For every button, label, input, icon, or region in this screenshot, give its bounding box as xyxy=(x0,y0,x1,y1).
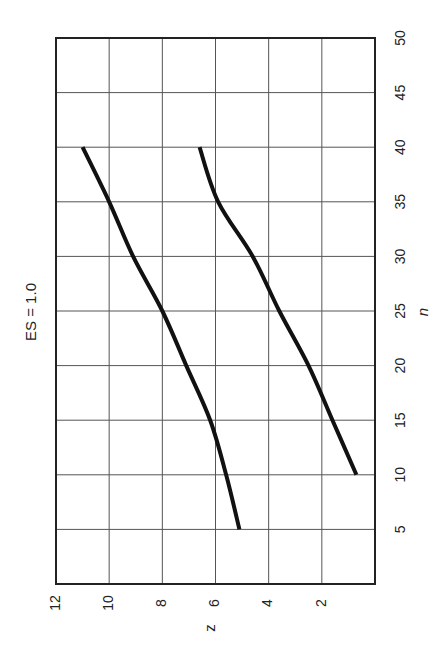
n-tick-label: 40 xyxy=(392,139,408,155)
n-tick-label: 45 xyxy=(392,85,408,101)
n-axis-label: n xyxy=(414,308,431,316)
n-tick-label: 20 xyxy=(392,358,408,374)
chart-title: ES = 1.0 xyxy=(22,283,39,341)
n-tick-label: 10 xyxy=(392,467,408,483)
n-tick-label: 5 xyxy=(392,525,408,533)
z-tick-label: 10 xyxy=(100,595,116,611)
chart: 5101520253035404550 24681012 n z ES = 1.… xyxy=(0,0,445,668)
n-tick-label: 30 xyxy=(392,248,408,264)
n-tick-label: 35 xyxy=(392,194,408,210)
n-tick-label: 50 xyxy=(392,30,408,46)
z-axis-label: z xyxy=(201,624,218,632)
z-tick-label: 2 xyxy=(313,599,329,607)
chart-background xyxy=(0,0,445,668)
z-tick-label: 4 xyxy=(259,599,275,607)
n-tick-label: 15 xyxy=(392,412,408,428)
z-tick-label: 12 xyxy=(47,595,63,611)
z-tick-label: 6 xyxy=(206,599,222,607)
n-tick-label: 25 xyxy=(392,303,408,319)
z-tick-label: 8 xyxy=(153,599,169,607)
